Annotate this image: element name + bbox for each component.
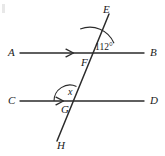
point-label-g: G [61,104,69,115]
point-label-a: A [8,47,15,58]
angle-label-112: 112° [95,43,113,53]
point-label-e: E [103,4,110,15]
point-label-c: C [8,95,15,106]
diagram-canvas [0,0,165,156]
point-label-b: B [150,47,157,58]
point-label-f: F [81,57,88,68]
transversal-eh [57,14,109,141]
angle-arc-112 [80,27,114,43]
point-label-d: D [150,95,158,106]
angle-label-x: x [68,87,72,97]
point-label-h: H [57,140,65,151]
geometry-figure: A B C D E F G H 112° x [0,0,165,156]
